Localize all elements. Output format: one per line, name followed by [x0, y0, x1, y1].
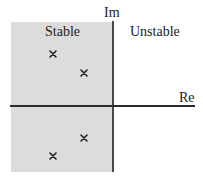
real-axis	[10, 105, 195, 107]
pole-x-icon	[48, 151, 58, 161]
pole-x-icon	[79, 133, 89, 143]
real-axis-label: Re	[179, 91, 195, 105]
unstable-region-label: Unstable	[130, 25, 180, 39]
imaginary-axis	[112, 21, 114, 172]
pole-x-icon	[48, 49, 58, 59]
stable-region	[11, 22, 113, 172]
stable-region-label: Stable	[45, 25, 80, 39]
imaginary-axis-label: Im	[104, 6, 120, 20]
pole-x-icon	[79, 68, 89, 78]
